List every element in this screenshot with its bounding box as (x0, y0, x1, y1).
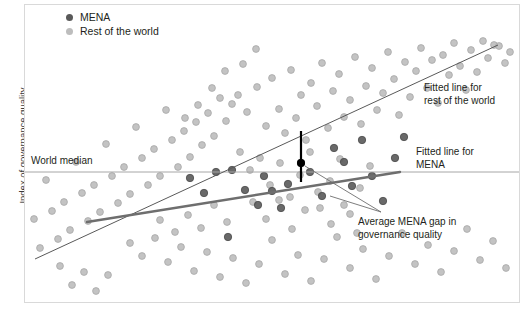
scatter-point-rest_of_world (127, 191, 134, 198)
scatter-point-mena (224, 233, 231, 240)
scatter-point-rest_of_world (240, 61, 247, 68)
scatter-point-rest_of_world (185, 212, 192, 219)
scatter-point-mena (254, 201, 261, 208)
scatter-point-rest_of_world (193, 119, 200, 126)
scatter-point-rest_of_world (451, 40, 458, 47)
scatter-point-mena (340, 158, 347, 165)
scatter-point-rest_of_world (211, 133, 218, 140)
scatter-point-rest_of_world (182, 115, 189, 122)
scatter-point-rest_of_world (139, 253, 146, 260)
scatter-point-rest_of_world (224, 219, 231, 226)
legend-dot-rest-of-world (66, 28, 73, 35)
scatter-point-rest_of_world (151, 146, 158, 153)
scatter-point-mena (358, 136, 365, 143)
scatter-point-rest_of_world (341, 202, 348, 209)
scatter-point-rest_of_world (373, 276, 380, 283)
scatter-point-rest_of_world (204, 249, 211, 256)
scatter-point-rest_of_world (485, 55, 492, 62)
scatter-point-rest_of_world (328, 221, 335, 228)
scatter-point-rest_of_world (157, 173, 164, 180)
scatter-point-rest_of_world (209, 85, 216, 92)
annotation-world-median: World median (31, 155, 93, 168)
scatter-point-rest_of_world (289, 226, 296, 233)
scatter-point-rest_of_world (451, 248, 458, 255)
scatter-point-rest_of_world (205, 110, 212, 117)
scatter-point-rest_of_world (43, 177, 50, 184)
scatter-point-rest_of_world (230, 255, 237, 262)
annotation-fitted-line-rest-of-world: Fitted line for rest of the world (424, 82, 495, 107)
scatter-point-rest_of_world (385, 49, 392, 56)
scatter-point-mena (330, 144, 337, 151)
gap-midpoint-dot (297, 159, 305, 167)
chart-figure: Index of governance quality MENA Rest of… (0, 0, 522, 317)
scatter-point-rest_of_world (222, 68, 229, 75)
scatter-point-rest_of_world (480, 38, 487, 45)
scatter-point-rest_of_world (347, 265, 354, 272)
scatter-point-rest_of_world (429, 57, 436, 64)
scatter-point-rest_of_world (276, 197, 283, 204)
scatter-point-rest_of_world (175, 164, 182, 171)
scatter-point-rest_of_world (157, 217, 164, 224)
scatter-point-rest_of_world (391, 76, 398, 83)
scatter-point-rest_of_world (244, 109, 251, 116)
scatter-point-rest_of_world (253, 46, 260, 53)
scatter-point-rest_of_world (319, 60, 326, 67)
scatter-point-rest_of_world (302, 207, 309, 214)
scatter-point-rest_of_world (97, 209, 104, 216)
scatter-point-rest_of_world (418, 45, 425, 52)
scatter-point-rest_of_world (352, 54, 359, 61)
scatter-point-rest_of_world (105, 272, 112, 279)
scatter-point-rest_of_world (374, 107, 381, 114)
scatter-point-rest_of_world (490, 238, 497, 245)
scatter-point-rest_of_world (169, 137, 176, 144)
scatter-point-rest_of_world (243, 280, 250, 287)
scatter-point-rest_of_world (425, 242, 432, 249)
scatter-point-rest_of_world (127, 240, 134, 247)
scatter-point-rest_of_world (69, 282, 76, 289)
scatter-point-rest_of_world (295, 252, 302, 259)
scatter-point-mena (400, 133, 407, 140)
scatter-point-rest_of_world (502, 60, 509, 67)
scatter-point-rest_of_world (229, 101, 236, 108)
annotation-fitted-line-mena: Fitted line for MENA (416, 146, 474, 171)
scatter-point-mena (186, 174, 193, 181)
scatter-point-rest_of_world (396, 112, 403, 119)
scatter-point-rest_of_world (334, 234, 341, 241)
scatter-point-mena (318, 192, 325, 199)
scatter-point-rest_of_world (81, 269, 88, 276)
scatter-point-rest_of_world (464, 226, 471, 233)
scatter-point-rest_of_world (165, 259, 172, 266)
scatter-point-rest_of_world (223, 118, 230, 125)
scatter-point-rest_of_world (103, 141, 110, 148)
scatter-point-rest_of_world (163, 107, 170, 114)
scatter-point-rest_of_world (217, 95, 224, 102)
scatter-point-rest_of_world (347, 97, 354, 104)
scatter-point-rest_of_world (181, 128, 188, 135)
chart-legend: MENA Rest of the world (66, 10, 159, 38)
scatter-point-rest_of_world (288, 67, 295, 74)
scatter-point-rest_of_world (307, 149, 314, 156)
legend-label-rest-of-world: Rest of the world (80, 24, 159, 38)
scatter-point-rest_of_world (336, 71, 343, 78)
scatter-point-rest_of_world (256, 261, 263, 268)
scatter-point-rest_of_world (369, 65, 376, 72)
scatter-point-rest_of_world (407, 94, 414, 101)
scatter-point-rest_of_world (330, 88, 337, 95)
scatter-point-rest_of_world (282, 271, 289, 278)
scatter-point-rest_of_world (474, 69, 481, 76)
leader-line (330, 196, 381, 212)
scatter-point-rest_of_world (91, 182, 98, 189)
scatter-point-mena (241, 186, 248, 193)
scatter-point-rest_of_world (198, 225, 205, 232)
scatter-point-rest_of_world (109, 173, 116, 180)
scatter-point-rest_of_world (358, 121, 365, 128)
scatter-point-rest_of_world (93, 288, 100, 295)
scatter-point-rest_of_world (55, 236, 62, 243)
scatter-point-rest_of_world (380, 90, 387, 97)
scatter-point-rest_of_world (386, 253, 393, 260)
scatter-point-rest_of_world (269, 237, 276, 244)
scatter-point-rest_of_world (191, 268, 198, 275)
scatter-point-mena (277, 204, 284, 211)
scatter-point-rest_of_world (321, 256, 328, 263)
scatter-point-rest_of_world (263, 216, 270, 223)
